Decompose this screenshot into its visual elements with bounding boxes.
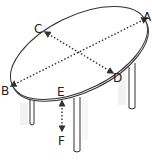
label-d: D <box>113 71 122 85</box>
label-b: B <box>1 84 9 98</box>
label-e: E <box>57 85 65 99</box>
label-a: A <box>143 10 152 24</box>
leg-front-left <box>30 100 34 125</box>
label-c: C <box>34 22 42 36</box>
label-f: F <box>58 134 65 148</box>
leg-back-right <box>129 63 135 109</box>
table-diagram: A B C D E F <box>0 0 152 166</box>
leg-front-middle <box>74 97 80 152</box>
